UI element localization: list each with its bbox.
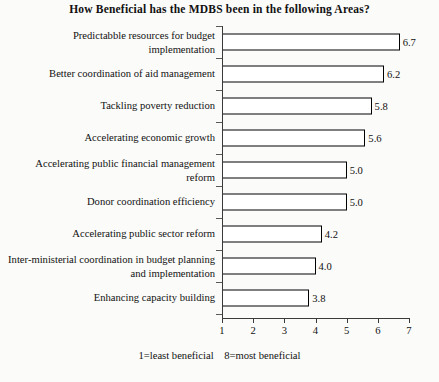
x-axis-tick-label: 4 (313, 325, 318, 336)
y-axis-tick (216, 90, 222, 91)
y-axis-tick (216, 122, 222, 123)
y-axis-tick (216, 58, 222, 59)
bar-row: Inter-ministerial coordination in budget… (0, 250, 439, 282)
bar-value-label: 3.8 (309, 293, 325, 304)
axis-note-most: 8=most beneficial (224, 350, 300, 361)
axis-scale-note: 1=least beneficial 8=most beneficial (0, 350, 439, 361)
bar (222, 194, 347, 211)
x-axis-tick (347, 318, 348, 323)
axis-note-gap (214, 350, 225, 361)
bar (222, 98, 372, 115)
category-label: Tackling poverty reduction (8, 99, 215, 113)
bar-row: Donor coordination efficiency5.0 (0, 186, 439, 218)
bar-value-label: 4.2 (322, 229, 338, 240)
axis-note-least: 1=least beneficial (139, 350, 214, 361)
bar-row: Accelerating public sector reform4.2 (0, 218, 439, 250)
y-axis-tick (216, 186, 222, 187)
plot-area: Predictabble resources for budget implem… (0, 26, 439, 318)
bar (222, 162, 347, 179)
y-axis-tick (216, 314, 222, 315)
category-label: Accelerating public sector reform (8, 227, 215, 241)
bar-row: Better coordination of aid management6.2 (0, 58, 439, 90)
bar-row: Accelerating economic growth5.6 (0, 122, 439, 154)
x-axis-tick (378, 318, 379, 323)
bar-row: Predictabble resources for budget implem… (0, 26, 439, 58)
x-axis-tick-label: 6 (375, 325, 380, 336)
x-axis-tick-label: 7 (406, 325, 411, 336)
bar (222, 34, 400, 51)
x-axis-tick (316, 318, 317, 323)
category-label: Better coordination of aid management (8, 67, 215, 81)
bar-row: Enhancing capacity building3.8 (0, 282, 439, 314)
bar (222, 290, 309, 307)
y-axis-tick (216, 282, 222, 283)
bar (222, 258, 316, 275)
y-axis-tick (216, 26, 222, 27)
bar-row: Accelerating public financial management… (0, 154, 439, 186)
x-axis-tick-label: 1 (219, 325, 224, 336)
category-label: Accelerating economic growth (8, 131, 215, 145)
bar (222, 66, 384, 83)
x-axis-tick-label: 5 (344, 325, 349, 336)
bar-value-label: 4.0 (316, 261, 332, 272)
y-axis-line (222, 26, 223, 318)
x-axis-tick-label: 3 (282, 325, 287, 336)
x-axis-tick (409, 318, 410, 323)
bar-value-label: 5.8 (372, 101, 388, 112)
y-axis-tick (216, 250, 222, 251)
x-axis-tick-label: 2 (251, 325, 256, 336)
x-axis-tick (222, 318, 223, 323)
bar-value-label: 6.7 (400, 37, 416, 48)
category-label: Donor coordination efficiency (8, 195, 215, 209)
x-axis-tick (284, 318, 285, 323)
bar-value-label: 5.0 (347, 165, 363, 176)
bar-value-label: 5.6 (365, 133, 381, 144)
bar-value-label: 5.0 (347, 197, 363, 208)
bar (222, 130, 365, 147)
category-label: Predictabble resources for budget implem… (8, 29, 215, 56)
y-axis-tick (216, 218, 222, 219)
chart-title: How Beneficial has the MDBS been in the … (0, 3, 439, 15)
bar-chart-figure: How Beneficial has the MDBS been in the … (0, 0, 439, 382)
category-label: Inter-ministerial coordination in budget… (8, 253, 215, 280)
category-label: Accelerating public financial management… (8, 157, 215, 184)
bar-row: Tackling poverty reduction5.8 (0, 90, 439, 122)
category-label: Enhancing capacity building (8, 291, 215, 305)
bar (222, 226, 322, 243)
bar-value-label: 6.2 (384, 69, 400, 80)
y-axis-tick (216, 154, 222, 155)
x-axis-tick (253, 318, 254, 323)
